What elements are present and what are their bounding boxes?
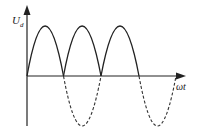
rectified-waveform-diagram: Ud ωt (0, 0, 198, 136)
solid-hump-1 (27, 26, 64, 76)
dashed-trough-2 (139, 76, 176, 126)
dashed-trough-1 (64, 76, 102, 126)
x-axis-label: ωt (176, 81, 186, 92)
solid-hump-3 (101, 26, 139, 76)
y-axis-arrow-icon (24, 5, 31, 15)
y-axis-label: Ud (12, 14, 24, 29)
x-axis-arrow-icon (176, 73, 186, 80)
solid-hump-2 (64, 26, 102, 76)
